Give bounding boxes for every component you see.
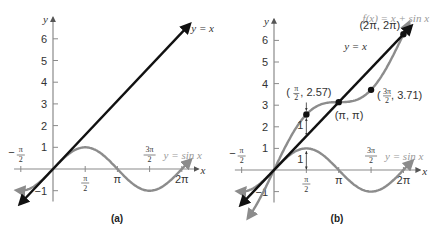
svg-text:2: 2 [294,93,298,102]
y-tick-label: 4 [41,76,47,88]
panel-a: xy654321−1−π2π2π3π22πy = sin xy = x(a) [8,13,214,224]
panel-caption: (a) [111,213,123,224]
data-point [336,99,342,105]
y-tick-label: 3 [262,99,268,111]
y-tick-label: 5 [262,56,268,68]
sin-label: y = sin x [384,150,423,162]
x-tick-label-neg-half-pi-num: π [240,146,244,155]
x-axis-label: x [200,164,206,176]
y-tick-label: 5 [41,55,47,67]
x-tick-label-half-pi-num: π [304,175,308,184]
y-tick-label: 2 [262,121,268,133]
data-point [400,31,406,37]
identity-label: y = x [343,40,367,52]
point-label-pi: (π, π) [335,109,364,121]
data-point [368,87,374,93]
svg-text:(: ( [377,89,381,101]
x-tick-label-three-half-pi-num: 3π [146,145,154,154]
y-tick-label: 2 [41,120,47,132]
identity-line [241,26,411,204]
sin-label: y = sin x [163,149,202,161]
x-tick-label-pi: π [335,174,343,186]
y-tick-label: 3 [41,98,47,110]
y-axis-label: y [263,15,269,27]
svg-text:2: 2 [385,96,389,105]
x-tick-label-neg-half-pi-den: 2 [19,155,23,164]
point-label-half-pi: , 2.57) [300,86,331,98]
x-tick-label-neg-half-pi-minus: − [229,147,235,159]
svg-text:π: π [294,84,298,93]
identity-line [20,25,189,204]
x-tick-label-half-pi-num: π [83,174,87,183]
x-tick-label-neg-half-pi-num: π [19,145,23,154]
x-tick-label-three-half-pi-den: 2 [148,155,152,164]
point-label-three-half-pi: , 3.71) [391,89,422,101]
x-tick-label-three-half-pi-den: 2 [369,156,373,165]
figure: xy654321−1−π2π2π3π22πy = sin xy = x(a) x… [0,0,433,231]
x-tick-label-half-pi-den: 2 [83,184,87,193]
dist-label-upper: 1 [297,119,303,131]
x-tick-label-pi: π [114,173,122,185]
x-tick-label-neg-half-pi-minus: − [8,146,14,158]
y-tick-label: 1 [41,141,47,153]
dist-label-lower: 1 [297,153,303,165]
y-tick-label: 6 [262,34,268,46]
point-label-open: ( [286,86,290,98]
panel-caption: (b) [331,213,344,224]
x-tick-label-half-pi-den: 2 [304,185,308,194]
y-tick-label: 6 [41,33,47,45]
point-label-two-pi: (2π, 2π) [359,19,400,31]
panel-b: xy654321−1−π2π2π3π22πy = sin xy = xf(x) … [229,12,429,224]
y-axis-label: y [42,13,48,25]
data-point [303,111,309,117]
y-tick-label: 1 [262,142,268,154]
x-axis-label: x [421,165,427,177]
x-tick-label-three-half-pi-num: 3π [367,146,375,155]
svg-text:3π: 3π [383,87,391,96]
x-tick-label-neg-half-pi-den: 2 [240,156,244,165]
identity-label: y = x [190,22,214,34]
y-tick-label: 4 [262,78,268,90]
